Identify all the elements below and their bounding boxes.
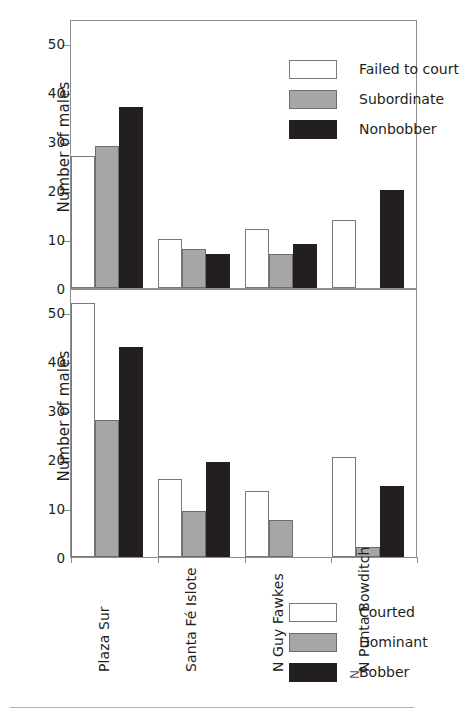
stray-glyph: N [348,670,362,679]
x-axis-tick [158,557,159,563]
bar [206,462,230,557]
legend-item[interactable]: Nonbobber [289,114,459,144]
bar [332,220,356,288]
bar [269,520,293,557]
bar [158,479,182,557]
bar [182,249,206,288]
legend-label: Nonbobber [359,122,437,136]
bar [158,239,182,288]
x-axis-category-label: Santa Fé Islote [183,567,199,672]
bar [119,107,143,288]
legend-swatch-nonbobber [289,120,337,139]
bar [245,491,269,557]
bar [269,254,293,288]
bar [245,229,269,288]
legend-swatch-failed-to-court [289,60,337,79]
legend-top: Failed to court Subordinate Nonbobber [289,54,459,144]
x-axis-tick [245,557,246,563]
bar [71,156,95,288]
y-axis-title-top: Number of males [55,57,73,237]
x-axis-category-label: Plaza Sur [96,606,112,672]
x-axis-tick [331,557,332,563]
legend-swatch-subordinate [289,90,337,109]
bar [95,420,119,557]
bar [332,457,356,557]
bar [293,244,317,288]
legend-swatch-courted [289,603,337,622]
bar [95,146,119,288]
y-axis-tick-label: 50 [48,308,65,322]
chart-panel-bottom: 01020304050 Number of males Courted Domi… [70,289,417,558]
plot-area-bottom: 01020304050 [71,290,416,557]
x-axis-tick [71,557,72,563]
y-axis-title-bottom: Number of males [55,326,73,506]
y-axis-tick-label: 0 [56,552,65,566]
bar [71,303,95,557]
x-axis-tick [417,557,418,563]
legend-label: Subordinate [359,92,444,106]
bar [380,190,404,288]
y-axis-tick-label: 50 [48,39,65,53]
legend-label: Failed to court [359,62,459,76]
bar [380,486,404,557]
chart-panel-top: 01020304050 Number of males Failed to co… [70,20,417,289]
legend-swatch-bobber [289,663,337,682]
legend-item[interactable]: Subordinate [289,84,459,114]
x-axis-category-label: N Punta Bowditch [356,547,372,672]
bar [119,347,143,557]
footer-rule [10,707,414,708]
bar [182,511,206,557]
legend-swatch-dominant [289,633,337,652]
bar [206,254,230,288]
x-axis-category-label: N Guy Fawkes [270,573,286,672]
legend-item[interactable]: Failed to court [289,54,459,84]
y-axis-tick-label: 0 [56,283,65,297]
